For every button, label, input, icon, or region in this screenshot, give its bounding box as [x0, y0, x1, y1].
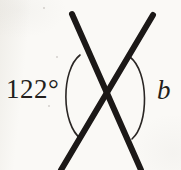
right-angle-arc — [130, 57, 145, 139]
left-angle-label: 122° — [6, 76, 59, 103]
line-top-right-to-bottom-left — [61, 15, 153, 170]
geometry-figure: 122° b — [0, 0, 181, 170]
left-angle-arc — [66, 55, 81, 139]
right-angle-label: b — [157, 77, 171, 104]
